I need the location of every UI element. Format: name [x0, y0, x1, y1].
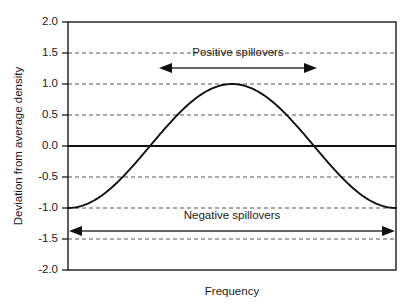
y-tick-label: 1.5	[42, 46, 58, 58]
negative-spillovers-label: Negative spillovers	[184, 209, 281, 221]
y-tick-label: 1.0	[42, 77, 58, 89]
y-tick-label: -1.5	[38, 232, 58, 244]
chart-figure: 2.0 1.5 1.0 0.5 0.0 -0.5 -1.0 -1.5 -2.0 …	[0, 0, 415, 308]
deviation-frequency-chart: 2.0 1.5 1.0 0.5 0.0 -0.5 -1.0 -1.5 -2.0 …	[0, 0, 415, 308]
y-tick-label: -2.0	[38, 263, 58, 275]
y-axis-title: Deviation from average density	[12, 66, 24, 225]
y-tick-label: -1.0	[38, 201, 58, 213]
y-tick-label: 0.5	[42, 108, 58, 120]
y-axis-tick-labels: 2.0 1.5 1.0 0.5 0.0 -0.5 -1.0 -1.5 -2.0	[38, 15, 58, 275]
y-tick-label: 2.0	[42, 15, 58, 27]
x-axis-title: Frequency	[205, 285, 260, 297]
y-axis-tickmarks	[62, 22, 68, 270]
positive-spillovers-label: Positive spillovers	[192, 46, 284, 58]
y-tick-label: 0.0	[42, 139, 58, 151]
y-tick-label: -0.5	[38, 170, 58, 182]
